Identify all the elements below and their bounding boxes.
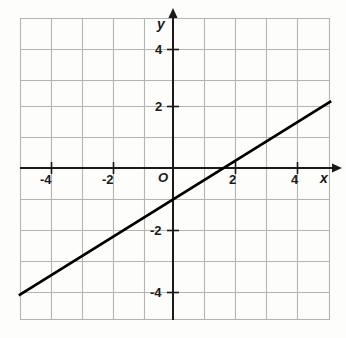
x-tick-label-4: 4 [291, 172, 298, 187]
x-tick-label-neg4: -4 [40, 172, 51, 187]
x-axis-arrowhead [332, 163, 342, 172]
plotted-line [20, 102, 330, 295]
x-tick-label-neg2: -2 [102, 172, 113, 187]
y-tick-label-4: 4 [155, 42, 162, 57]
y-axis-label: y [157, 16, 165, 32]
graph-canvas [0, 0, 346, 338]
x-tick-label-2: 2 [229, 172, 236, 187]
y-axis-arrowhead [168, 8, 177, 18]
y-tick-label-neg2: -2 [150, 223, 161, 238]
x-axis-label: x [320, 170, 328, 186]
origin-label: O [158, 170, 168, 185]
y-tick-label-2: 2 [155, 99, 162, 114]
coordinate-plane-figure: 4 2 -2 -4 -4 -2 2 4 y x O [0, 0, 346, 338]
y-tick-label-neg4: -4 [150, 285, 161, 300]
